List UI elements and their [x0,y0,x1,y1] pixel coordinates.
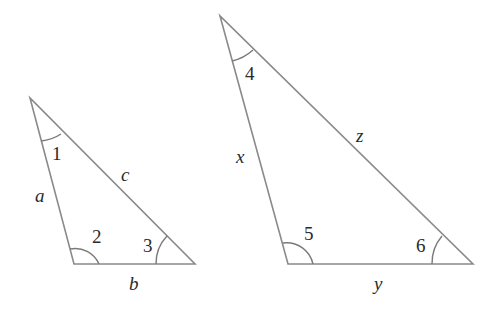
side-y-label: y [372,273,383,294]
angle-1-label: 1 [52,143,62,164]
triangle-large-outline [220,16,473,264]
side-x-label: x [235,146,245,167]
angle-2-arc [70,248,99,264]
angle-1-arc [41,134,61,141]
angle-2-label: 2 [92,226,102,247]
angle-6-arc [432,236,442,264]
side-c-label: c [121,164,130,185]
angle-6-label: 6 [416,235,426,256]
angle-3-label: 3 [143,235,153,256]
angle-4-arc [232,50,253,61]
angle-5-label: 5 [304,223,314,244]
side-z-label: z [355,125,364,146]
side-a-label: a [35,185,45,206]
angle-4-label: 4 [245,63,255,84]
triangle-large: 4 5 6 x z y [220,16,473,294]
triangle-small: 1 2 3 a c b [30,98,195,294]
triangles-diagram: 1 2 3 a c b 4 5 6 x z y [0,0,499,309]
angle-3-arc [156,236,167,264]
side-b-label: b [129,273,139,294]
triangle-small-outline [30,98,195,264]
